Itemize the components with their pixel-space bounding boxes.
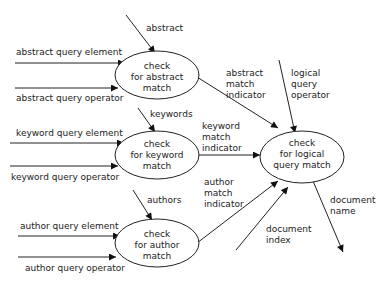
label-keywords: keywords bbox=[150, 109, 193, 119]
svg-text:match: match bbox=[226, 79, 254, 89]
svg-text:for author: for author bbox=[135, 240, 180, 250]
svg-text:index: index bbox=[266, 235, 291, 245]
label-abstract: abstract bbox=[146, 23, 184, 33]
svg-text:check: check bbox=[289, 138, 316, 148]
label-document-name: document name bbox=[330, 195, 376, 216]
svg-text:indicator: indicator bbox=[202, 143, 242, 153]
svg-text:check: check bbox=[144, 61, 171, 71]
svg-text:name: name bbox=[330, 206, 356, 216]
label-author-query-element: author query element bbox=[20, 221, 119, 231]
label-abstract-match-indicator: abstract match indicator bbox=[226, 68, 266, 100]
flow-document-name-arrow bbox=[313, 181, 343, 252]
svg-text:check: check bbox=[144, 139, 171, 149]
process-check-abstract-match: check for abstract match bbox=[115, 51, 199, 99]
svg-text:match: match bbox=[204, 188, 232, 198]
label-logical-query-operator: logical query operator bbox=[291, 68, 330, 100]
svg-text:check: check bbox=[144, 229, 171, 239]
svg-text:for abstract: for abstract bbox=[131, 72, 184, 82]
svg-text:logical: logical bbox=[291, 68, 320, 78]
label-keyword-query-operator: keyword query operator bbox=[11, 172, 120, 182]
label-author-query-operator: author query operator bbox=[25, 263, 125, 273]
svg-text:query match: query match bbox=[273, 160, 330, 170]
process-check-keyword-match: check for keyword match bbox=[115, 131, 199, 179]
svg-text:for keyword: for keyword bbox=[130, 150, 183, 160]
svg-text:match: match bbox=[143, 161, 171, 171]
process-check-author-match: check for author match bbox=[115, 219, 199, 267]
svg-text:operator: operator bbox=[291, 90, 330, 100]
svg-text:match: match bbox=[143, 83, 171, 93]
process-check-logical-query-match: check for logical query match bbox=[260, 131, 344, 183]
svg-text:keyword: keyword bbox=[202, 121, 240, 131]
label-document-index: document index bbox=[266, 224, 312, 245]
svg-text:abstract: abstract bbox=[226, 68, 264, 78]
label-author-match-indicator: author match indicator bbox=[204, 177, 244, 209]
label-abstract-query-element: abstract query element bbox=[16, 47, 122, 57]
flow-abstract-arrow bbox=[126, 15, 155, 53]
label-abstract-query-operator: abstract query operator bbox=[16, 93, 124, 103]
svg-text:query: query bbox=[291, 79, 318, 89]
svg-text:match: match bbox=[143, 251, 171, 261]
svg-text:match: match bbox=[202, 132, 230, 142]
svg-text:author: author bbox=[204, 177, 234, 187]
data-flow-diagram: check for abstract match check for keywo… bbox=[0, 0, 383, 285]
svg-text:indicator: indicator bbox=[204, 199, 244, 209]
svg-text:document: document bbox=[330, 195, 376, 205]
svg-text:document: document bbox=[266, 224, 312, 234]
svg-text:indicator: indicator bbox=[226, 90, 266, 100]
label-keyword-match-indicator: keyword match indicator bbox=[202, 121, 242, 153]
label-authors: authors bbox=[147, 195, 182, 205]
label-keyword-query-element: keyword query element bbox=[16, 128, 123, 138]
svg-text:for logical: for logical bbox=[280, 149, 324, 159]
